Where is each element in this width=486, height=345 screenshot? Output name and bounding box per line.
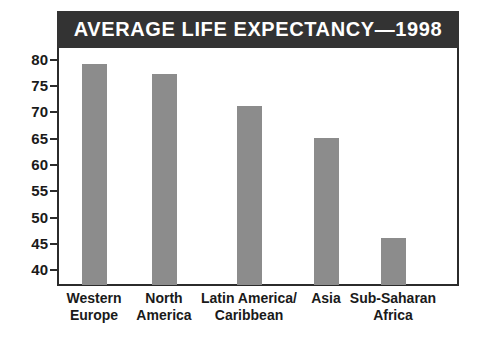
- bar: [381, 238, 406, 285]
- x-axis-label-line: Africa: [350, 307, 436, 324]
- x-axis-label-line: Caribbean: [201, 307, 297, 324]
- x-axis-label-line: North: [136, 290, 191, 307]
- x-axis-label-line: Asia: [311, 290, 341, 307]
- bar: [314, 138, 339, 285]
- y-tick-mark: [50, 190, 59, 192]
- x-axis-label: WesternEurope: [67, 290, 122, 324]
- x-axis-label-line: Latin America/: [201, 290, 297, 307]
- y-tick-label: 75: [31, 76, 48, 93]
- x-axis-label: NorthAmerica: [136, 290, 191, 324]
- x-axis-label: Sub-SaharanAfrica: [350, 290, 436, 324]
- x-axis-label-line: Western: [67, 290, 122, 307]
- x-axis-label-line: Sub-Saharan: [350, 290, 436, 307]
- plot-area: 807570656055504540: [59, 48, 458, 285]
- y-tick-mark: [50, 138, 59, 140]
- x-axis-label: Latin America/Caribbean: [201, 290, 297, 324]
- y-tick-mark: [50, 269, 59, 271]
- y-tick-label: 50: [31, 208, 48, 225]
- y-tick-label: 45: [31, 234, 48, 251]
- y-tick-mark: [50, 217, 59, 219]
- y-tick-label: 40: [31, 261, 48, 278]
- x-axis-category-labels: WesternEuropeNorthAmericaLatin America/C…: [59, 290, 458, 340]
- bar: [82, 64, 107, 285]
- y-tick-mark: [50, 243, 59, 245]
- y-tick-mark: [50, 111, 59, 113]
- y-tick-label: 70: [31, 103, 48, 120]
- x-axis-label-line: America: [136, 307, 191, 324]
- y-tick-mark: [50, 85, 59, 87]
- y-tick-label: 55: [31, 182, 48, 199]
- x-axis-label: Asia: [311, 290, 341, 307]
- chart-title: AVERAGE LIFE EXPECTANCY—1998: [74, 18, 442, 41]
- bar: [152, 74, 177, 285]
- x-axis-label-line: Europe: [67, 307, 122, 324]
- y-tick-label: 65: [31, 129, 48, 146]
- chart-figure: AVERAGE LIFE EXPECTANCY—1998 80757065605…: [0, 0, 486, 345]
- y-tick-mark: [50, 59, 59, 61]
- y-tick-mark: [50, 164, 59, 166]
- chart-title-bar: AVERAGE LIFE EXPECTANCY—1998: [57, 11, 459, 48]
- y-tick-label: 60: [31, 155, 48, 172]
- bar: [237, 106, 262, 285]
- y-tick-label: 80: [31, 50, 48, 67]
